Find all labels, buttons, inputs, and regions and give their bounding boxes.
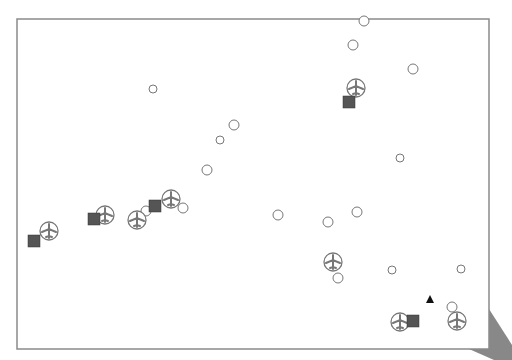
airport-icon xyxy=(324,253,342,271)
square-marker xyxy=(343,96,355,108)
circle-marker xyxy=(333,273,343,283)
airport-icon xyxy=(162,190,180,208)
airport-icon xyxy=(40,222,58,240)
circle-marker xyxy=(202,165,212,175)
circle-marker xyxy=(447,302,457,312)
airport-icon xyxy=(391,313,409,331)
circle-marker xyxy=(388,266,396,274)
circle-marker xyxy=(408,64,418,74)
airport-icon xyxy=(448,312,466,330)
airport-icon xyxy=(128,211,146,229)
circle-marker xyxy=(348,40,358,50)
circle-marker xyxy=(359,16,369,26)
square-marker xyxy=(407,315,419,327)
circle-marker xyxy=(323,217,333,227)
airport-icon xyxy=(347,79,365,97)
circle-marker xyxy=(178,203,188,213)
circle-marker xyxy=(273,210,283,220)
circle-marker xyxy=(216,136,224,144)
square-marker xyxy=(28,235,40,247)
circle-marker xyxy=(229,120,239,130)
map-canvas xyxy=(0,0,512,360)
square-marker xyxy=(88,213,100,225)
circle-marker xyxy=(149,85,157,93)
circle-marker xyxy=(396,154,404,162)
square-marker xyxy=(149,200,161,212)
circle-marker xyxy=(457,265,465,273)
circle-marker xyxy=(352,207,362,217)
